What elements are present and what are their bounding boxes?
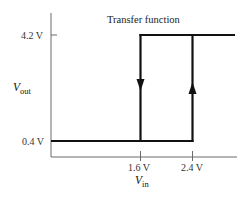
x-axis-label-main: V: [135, 174, 142, 186]
y-tick-label-0.4: 0.4 V: [22, 137, 44, 147]
y-tick-label-4.2: 4.2 V: [21, 31, 43, 41]
y-axis-label-sub: out: [20, 86, 31, 96]
transfer-function-diagram: Transfer function 4.2 V 0.4 V Vout 1.6 V…: [0, 0, 244, 203]
y-axis-label-main: V: [13, 81, 20, 93]
diagram-title: Transfer function: [107, 15, 180, 26]
x-tick-label-1.6: 1.6 V: [128, 163, 150, 173]
x-axis-label-sub: in: [142, 179, 149, 189]
x-tick-label-2.4: 2.4 V: [181, 163, 203, 173]
y-axis-label: Vout: [13, 82, 31, 96]
up-arrow-icon: [189, 82, 197, 94]
x-axis-label: Vin: [135, 175, 149, 189]
down-arrow-icon: [137, 79, 145, 91]
